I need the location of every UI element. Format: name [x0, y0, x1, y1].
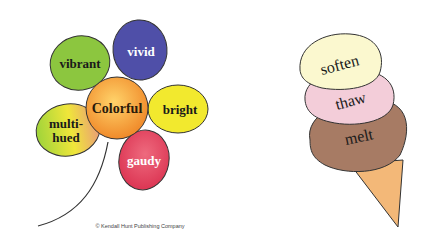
- ice-cream-cone: melt thaw soften: [300, 34, 407, 227]
- petal-bright: bright: [148, 85, 208, 133]
- petal-vivid: vivid: [110, 18, 169, 82]
- petal-vivid-label: vivid: [127, 44, 155, 59]
- flower-center-label: Colorful: [92, 101, 143, 116]
- petal-gaudy-label: gaudy: [127, 153, 161, 168]
- copyright-text: © Kendall Hunt Publishing Company: [95, 223, 184, 229]
- petal-multi-label-1: multi-: [49, 116, 83, 131]
- petal-bright-label: bright: [163, 102, 198, 117]
- scoop-soften: soften: [300, 34, 382, 90]
- petal-vibrant-label: vibrant: [59, 56, 101, 71]
- illustration: vibrant vivid bright gaudy multi- hued C…: [0, 0, 434, 252]
- flower-center: Colorful: [86, 77, 148, 139]
- petal-multi-label-2: hued: [52, 130, 80, 145]
- illustration-svg: vibrant vivid bright gaudy multi- hued C…: [0, 0, 434, 252]
